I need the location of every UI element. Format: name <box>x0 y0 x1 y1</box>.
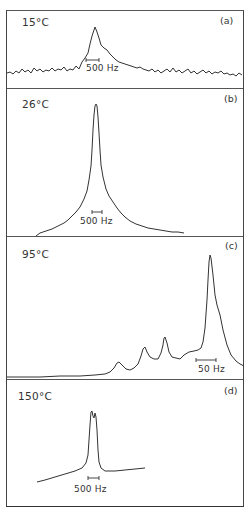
spectrum-curve-a <box>7 27 242 76</box>
spectrum-curve-c <box>7 255 244 377</box>
spectra-figure: 15°C (a) 500 Hz 26°C (b) 500 Hz 95°C (c)… <box>0 0 250 513</box>
spectrum-curve-d <box>37 411 145 482</box>
spectrum-curve-b <box>36 104 184 236</box>
spectra-curves <box>0 0 250 513</box>
